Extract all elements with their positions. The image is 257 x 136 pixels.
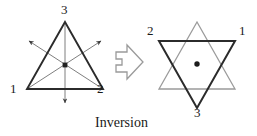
right-vertex-label-top-right: 1 <box>239 24 246 37</box>
hexagram-light-up-triangle <box>159 22 235 89</box>
inversion-axes <box>27 22 103 103</box>
transform-arrow-group <box>116 45 143 79</box>
inversion-figure: 3 1 2 2 1 3 Inversion <box>0 0 257 136</box>
hexagram-dark-down-triangle <box>159 41 235 108</box>
left-vertex-label-bottom-right: 2 <box>97 82 104 95</box>
figure-caption: Inversion <box>95 115 148 130</box>
left-center-dot <box>63 63 68 68</box>
right-vertex-label-bottom: 3 <box>194 106 201 119</box>
right-hexagram-group <box>159 22 235 108</box>
left-vertex-label-top: 3 <box>61 3 68 16</box>
right-center-dot <box>194 61 199 66</box>
right-vertex-label-top-left: 2 <box>147 24 154 37</box>
left-vertex-label-bottom-left: 1 <box>10 82 17 95</box>
left-triangle-group <box>27 22 103 103</box>
block-arrow-right-icon <box>116 45 143 79</box>
